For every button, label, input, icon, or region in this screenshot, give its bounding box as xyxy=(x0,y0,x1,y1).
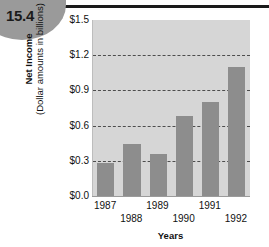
x-axis-title: Years xyxy=(92,230,249,241)
y-axis-title-line1: Net Income xyxy=(23,0,34,129)
x-tick-label: 1988 xyxy=(111,213,151,225)
bar-slot xyxy=(119,20,145,196)
x-tick-label: 1987 xyxy=(85,200,125,212)
bar-slot xyxy=(93,20,119,196)
y-tick-label: $0.9 xyxy=(55,85,89,95)
y-tick-label: $1.2 xyxy=(55,50,89,60)
bar xyxy=(202,102,219,196)
bar-slot xyxy=(172,20,198,196)
bar xyxy=(123,144,140,196)
bar xyxy=(176,116,193,196)
y-axis-title: Net Income (Dollar amounts in billions) xyxy=(23,0,45,129)
bar-series xyxy=(93,20,250,196)
x-tick-label: 1989 xyxy=(137,200,177,212)
bar xyxy=(150,154,167,196)
y-axis-tick-labels: $0.0$0.3$0.6$0.9$1.2$1.5 xyxy=(52,0,89,247)
bar-slot xyxy=(198,20,224,196)
y-tick-label: $0.6 xyxy=(55,121,89,131)
plot-area xyxy=(92,20,250,196)
bar xyxy=(97,163,114,196)
x-tick-label: 1990 xyxy=(164,213,204,225)
y-tick-label: $1.5 xyxy=(55,15,89,25)
chart-figure: 15.4 Net Income (Dollar amounts in billi… xyxy=(0,0,269,247)
y-tick-label: $0.0 xyxy=(55,191,89,201)
y-tick-label: $0.3 xyxy=(55,156,89,166)
y-axis-title-line2: (Dollar amounts in billions) xyxy=(34,0,45,129)
x-axis-tick-labels: 198719881989199019911992 xyxy=(92,198,249,230)
bar-slot xyxy=(224,20,250,196)
bar-slot xyxy=(145,20,171,196)
x-tick-label: 1992 xyxy=(216,213,256,225)
bar xyxy=(228,67,245,196)
x-tick-label: 1991 xyxy=(190,200,230,212)
x-axis-line xyxy=(92,196,250,197)
